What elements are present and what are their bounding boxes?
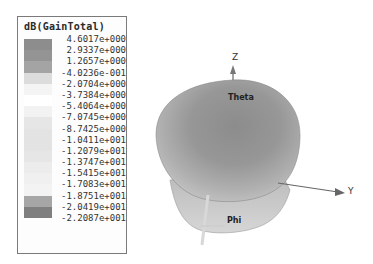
legend-value: -1.0411e+001 [54, 135, 126, 146]
y-axis-arrowhead [335, 188, 345, 196]
legend-swatch [24, 162, 52, 173]
y-axis-label: Y [348, 186, 354, 196]
legend-swatch [24, 73, 52, 84]
legend-swatch [24, 207, 52, 218]
legend-swatch [24, 117, 52, 128]
legend-value: -2.0704e+000 [54, 79, 126, 90]
color-scale [24, 39, 52, 218]
theta-label: Theta [228, 93, 254, 102]
legend-value: -1.7083e+001 [54, 179, 126, 190]
legend-value: 4.6017e+000 [54, 34, 126, 45]
legend-value: -2.0419e+001 [54, 202, 126, 213]
legend-value: 1.2657e+000 [54, 56, 126, 67]
legend-value: -1.5415e+001 [54, 168, 126, 179]
legend-value: -8.7425e+000 [54, 124, 126, 135]
z-axis-label: Z [232, 52, 238, 62]
legend-swatch [24, 39, 52, 50]
legend-value: -4.0236e-001 [54, 68, 126, 79]
legend-swatch [24, 95, 52, 106]
z-axis-arrowhead [230, 65, 236, 74]
legend-swatch [24, 173, 52, 184]
gain-legend: dB(GainTotal) 4.6017e+0002.9337e+0001.26… [17, 16, 127, 254]
radiation-pattern-3d[interactable]: Z Y Theta Phi [140, 40, 373, 264]
legend-swatch [24, 106, 52, 117]
legend-value: -7.0745e+000 [54, 112, 126, 123]
legend-value: -3.7384e+000 [54, 90, 126, 101]
legend-swatch [24, 196, 52, 207]
legend-value: -1.3747e+001 [54, 157, 126, 168]
legend-swatch [24, 151, 52, 162]
legend-value: -5.4064e+000 [54, 101, 126, 112]
legend-swatch [24, 184, 52, 195]
phi-label: Phi [227, 216, 241, 225]
legend-value: -2.2087e+001 [54, 213, 126, 224]
legend-swatch [24, 84, 52, 95]
legend-swatch [24, 140, 52, 151]
legend-value: -1.8751e+001 [54, 191, 126, 202]
legend-swatch [24, 129, 52, 140]
legend-value: 2.9337e+000 [54, 45, 126, 56]
scale-labels: 4.6017e+0002.9337e+0001.2657e+000-4.0236… [54, 34, 126, 224]
legend-value: -1.2079e+001 [54, 146, 126, 157]
legend-swatch [24, 61, 52, 72]
legend-swatch [24, 50, 52, 61]
pattern-surface [140, 40, 373, 264]
legend-title: dB(GainTotal) [24, 21, 105, 32]
